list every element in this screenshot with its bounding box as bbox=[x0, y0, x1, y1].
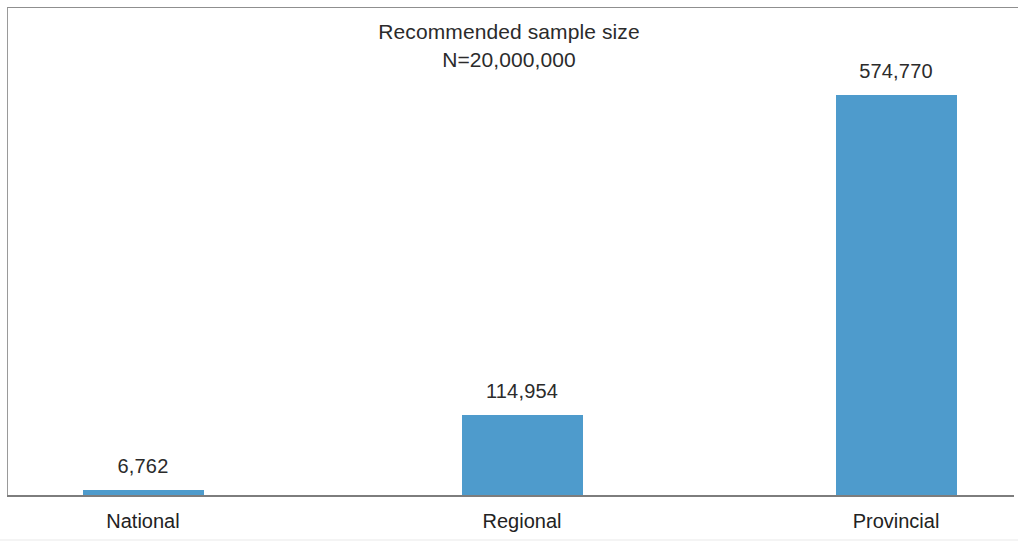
chart-title: Recommended sample size N=20,000,000 bbox=[0, 18, 1018, 74]
category-axis-line bbox=[7, 495, 1014, 497]
plot-area bbox=[7, 7, 1018, 496]
category-label-regional: Regional bbox=[392, 508, 652, 534]
category-label-national: National bbox=[13, 508, 273, 534]
category-label-provincial: Provincial bbox=[766, 508, 1018, 534]
bar-chart: Recommended sample size N=20,000,000 6,7… bbox=[0, 0, 1018, 541]
page-edge-top bbox=[0, 0, 1018, 5]
chart-subtitle-text: N=20,000,000 bbox=[0, 46, 1018, 74]
chart-title-text: Recommended sample size bbox=[0, 18, 1018, 46]
